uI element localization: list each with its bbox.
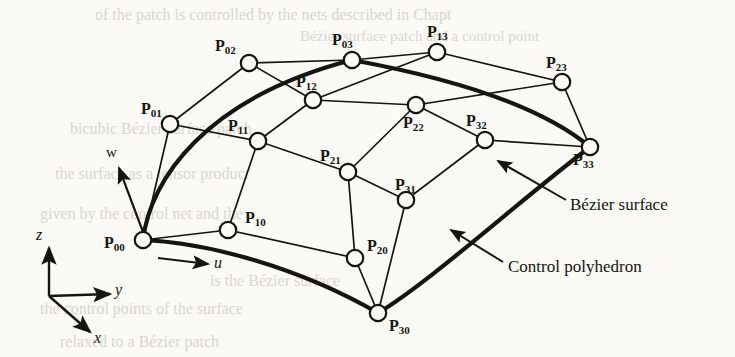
point-label-base: P <box>395 176 405 193</box>
control-point-label-p20: P20 <box>367 238 388 254</box>
point-label-base: P <box>332 31 342 48</box>
control-point-node-p11 <box>250 133 266 149</box>
point-label-base: P <box>466 112 476 129</box>
axis-label-y: y <box>115 282 122 298</box>
control-point-node-p10 <box>220 222 236 238</box>
point-label-subscript: 11 <box>238 124 248 136</box>
control-point-label-p32: P32 <box>466 113 487 129</box>
control-point-label-p11: P11 <box>228 118 248 134</box>
point-label-base: P <box>573 151 583 168</box>
point-label-subscript: 32 <box>476 119 487 131</box>
control-point-node-p30 <box>370 305 386 321</box>
control-point-node-p21 <box>340 164 356 180</box>
control-point-label-p33: P33 <box>573 152 594 168</box>
control-point-label-p22: P22 <box>403 115 424 131</box>
point-label-subscript: 12 <box>306 80 317 92</box>
point-label-base: P <box>296 73 306 90</box>
annotation-label-control-polyhedron: Control polyhedron <box>508 258 642 275</box>
control-point-node-p22 <box>408 97 424 113</box>
point-label-base: P <box>320 147 330 164</box>
parameter-label-u: u <box>214 255 222 271</box>
control-point-node-p00 <box>135 232 151 248</box>
axis-label-x: x <box>94 330 101 346</box>
control-point-label-p00: P00 <box>104 235 125 251</box>
control-point-node-p12 <box>305 92 321 108</box>
control-point-label-p10: P10 <box>245 210 266 226</box>
coordinate-axes <box>49 248 110 332</box>
control-point-label-p12: P12 <box>296 74 317 90</box>
point-label-subscript: 22 <box>413 121 424 133</box>
point-label-base: P <box>389 317 399 334</box>
control-point-node-p20 <box>347 250 363 266</box>
point-label-subscript: 31 <box>405 183 416 195</box>
control-point-label-p13: P13 <box>427 24 448 40</box>
control-point-label-p31: P31 <box>395 177 416 193</box>
axis-line-x <box>49 296 90 332</box>
point-label-base: P <box>546 54 556 71</box>
control-point-node-p02 <box>241 55 257 71</box>
point-label-subscript: 10 <box>255 216 266 228</box>
control-point-nodes <box>135 44 598 321</box>
parameter-arrow-u <box>158 258 208 264</box>
point-label-subscript: 20 <box>377 244 388 256</box>
bezier-surface-figure: of the patch is controlled by the nets d… <box>0 0 735 357</box>
point-label-subscript: 03 <box>342 38 353 50</box>
point-label-base: P <box>228 117 238 134</box>
control-point-node-p13 <box>429 44 445 60</box>
parameter-label-w: w <box>106 145 117 160</box>
point-label-subscript: 00 <box>114 241 125 253</box>
control-point-node-p01 <box>162 116 178 132</box>
point-label-base: P <box>245 209 255 226</box>
control-point-node-p32 <box>477 132 493 148</box>
point-label-base: P <box>141 100 151 117</box>
point-label-subscript: 21 <box>330 154 341 166</box>
point-label-base: P <box>367 237 377 254</box>
control-point-label-p23: P23 <box>546 55 567 71</box>
figure-canvas <box>0 0 735 357</box>
point-label-base: P <box>403 114 413 131</box>
axis-line-y <box>49 294 110 296</box>
axis-label-z: z <box>36 227 42 243</box>
control-point-label-p02: P02 <box>215 38 236 54</box>
point-label-subscript: 01 <box>151 107 162 119</box>
annotation-label-b-zier-surface: Bézier surface <box>570 196 668 213</box>
point-label-subscript: 23 <box>556 61 567 73</box>
annotation-leader-1 <box>451 230 503 262</box>
control-point-node-p23 <box>554 74 570 90</box>
point-label-base: P <box>215 37 225 54</box>
point-label-subscript: 33 <box>583 158 594 170</box>
control-point-label-p01: P01 <box>141 101 162 117</box>
point-label-subscript: 30 <box>399 324 410 336</box>
point-label-subscript: 02 <box>225 44 236 56</box>
control-point-label-p21: P21 <box>320 148 341 164</box>
point-label-base: P <box>427 23 437 40</box>
point-label-subscript: 13 <box>437 30 448 42</box>
control-point-node-p03 <box>344 52 360 68</box>
point-label-base: P <box>104 234 114 251</box>
parameter-arrow-w <box>119 168 143 232</box>
control-point-label-p03: P03 <box>332 32 353 48</box>
control-point-label-p30: P30 <box>389 318 410 334</box>
